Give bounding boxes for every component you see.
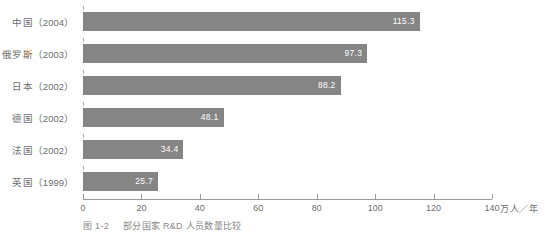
bar-germany[interactable]: 48.1 bbox=[83, 108, 224, 127]
x-axis-tick bbox=[258, 194, 259, 199]
bar-track: 115.3 bbox=[83, 6, 550, 38]
category-label: 日本（2002） bbox=[0, 79, 83, 93]
bar-value-label: 115.3 bbox=[393, 17, 415, 26]
figure-caption: 图 1-2部分国家 R&D 人员数量比较 bbox=[83, 219, 242, 232]
axis-unit-label: 万人／年 bbox=[500, 202, 538, 215]
x-axis-line bbox=[83, 199, 492, 200]
x-axis-tick bbox=[83, 194, 84, 199]
bar-france[interactable]: 34.4 bbox=[83, 140, 183, 159]
bar-uk[interactable]: 25.7 bbox=[83, 172, 158, 191]
caption-number: 图 1-2 bbox=[83, 221, 109, 231]
x-axis-tick bbox=[375, 194, 376, 199]
bar-china[interactable]: 115.3 bbox=[83, 12, 420, 31]
x-axis-tick bbox=[317, 194, 318, 199]
bar-value-label: 25.7 bbox=[135, 177, 153, 186]
chart-plot-area: 中国（2004） 115.3 俄罗斯（2003） 97.3 日本（2002） bbox=[0, 0, 550, 205]
category-axis-tick bbox=[83, 38, 84, 42]
bar-row: 俄罗斯（2003） 97.3 bbox=[0, 38, 550, 70]
bar-row: 日本（2002） 88.2 bbox=[0, 70, 550, 102]
category-country: 日本 bbox=[12, 81, 32, 92]
x-axis-tick-label: 100 bbox=[368, 203, 383, 213]
category-country: 英国 bbox=[12, 177, 32, 188]
category-country: 中国 bbox=[12, 17, 32, 28]
x-axis-tick bbox=[434, 194, 435, 199]
category-year: （2002） bbox=[33, 113, 74, 124]
category-country: 德国 bbox=[12, 113, 32, 124]
category-label: 俄罗斯（2003） bbox=[0, 47, 83, 61]
caption-text: 部分国家 R&D 人员数量比较 bbox=[123, 221, 242, 231]
category-year: （2004） bbox=[33, 17, 74, 28]
category-axis-tick bbox=[83, 102, 84, 106]
x-axis-tick bbox=[141, 194, 142, 199]
bar-row: 法国（2002） 34.4 bbox=[0, 134, 550, 166]
category-axis-tick bbox=[83, 70, 84, 74]
bar-value-label: 97.3 bbox=[345, 49, 363, 58]
bar-row: 中国（2004） 115.3 bbox=[0, 6, 550, 38]
category-country: 法国 bbox=[12, 145, 32, 156]
category-label: 法国（2002） bbox=[0, 143, 83, 157]
category-label: 英国（1999） bbox=[0, 175, 83, 189]
x-axis-tick-label: 20 bbox=[136, 203, 146, 213]
bar-track: 34.4 bbox=[83, 134, 550, 166]
bar-row: 德国（2002） 48.1 bbox=[0, 102, 550, 134]
category-country: 俄罗斯 bbox=[2, 49, 33, 60]
category-axis-tick bbox=[83, 166, 84, 170]
x-axis-tick-label: 120 bbox=[426, 203, 441, 213]
category-label: 中国（2004） bbox=[0, 15, 83, 29]
x-axis-tick-label: 140 bbox=[484, 203, 499, 213]
x-axis-tick-label: 0 bbox=[80, 203, 85, 213]
x-axis-tick-label: 80 bbox=[312, 203, 322, 213]
figure-container: 中国（2004） 115.3 俄罗斯（2003） 97.3 日本（2002） bbox=[0, 0, 550, 237]
x-axis-tick-label: 60 bbox=[253, 203, 263, 213]
bar-value-label: 88.2 bbox=[318, 81, 336, 90]
x-axis-tick-label: 40 bbox=[195, 203, 205, 213]
category-label: 德国（2002） bbox=[0, 111, 83, 125]
category-axis-tick bbox=[83, 134, 84, 138]
bar-japan[interactable]: 88.2 bbox=[83, 76, 341, 95]
bar-track: 88.2 bbox=[83, 70, 550, 102]
category-year: （2003） bbox=[33, 49, 74, 60]
x-axis-tick bbox=[200, 194, 201, 199]
category-year: （1999） bbox=[33, 177, 74, 188]
bar-track: 97.3 bbox=[83, 38, 550, 70]
bar-value-label: 48.1 bbox=[201, 113, 219, 122]
bar-track: 48.1 bbox=[83, 102, 550, 134]
category-axis-tick bbox=[83, 6, 84, 10]
bar-russia[interactable]: 97.3 bbox=[83, 44, 367, 63]
category-year: （2002） bbox=[33, 145, 74, 156]
bar-value-label: 34.4 bbox=[161, 145, 179, 154]
category-year: （2002） bbox=[33, 81, 74, 92]
x-axis-tick bbox=[492, 194, 493, 199]
